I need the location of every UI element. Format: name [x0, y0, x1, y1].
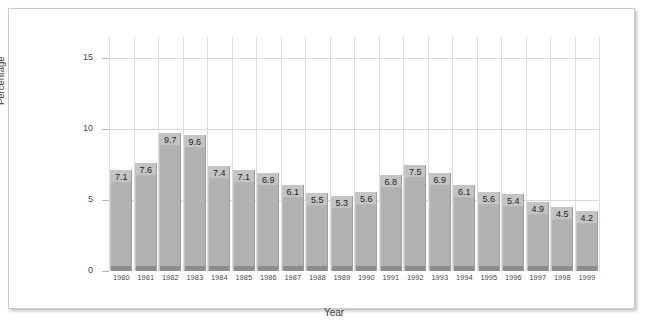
- bar[interactable]: 6.9: [257, 173, 279, 271]
- y-axis-tick-mark: [102, 200, 109, 201]
- bar-base-strip: [528, 266, 548, 271]
- bar-base-strip: [405, 266, 425, 271]
- bar[interactable]: 7.6: [135, 163, 157, 271]
- bar[interactable]: 5.4: [502, 194, 524, 271]
- bar[interactable]: 7.4: [208, 166, 230, 271]
- bar-base-strip: [454, 266, 474, 271]
- bar[interactable]: 6.1: [453, 185, 475, 272]
- bar-base-strip: [356, 266, 376, 271]
- bar-base-strip: [283, 266, 303, 271]
- bar-value-label: 7.5: [405, 166, 425, 178]
- plot-area: 0510157.119807.619819.719829.619837.4198…: [109, 37, 599, 271]
- bar-value-label: 5.3: [332, 197, 352, 209]
- y-axis-tick-mark: [102, 271, 109, 272]
- bar-base-strip: [234, 266, 254, 271]
- y-axis-tick-label: 5: [47, 195, 93, 204]
- bar[interactable]: 9.6: [184, 135, 206, 271]
- bar-value-label: 6.9: [430, 174, 450, 186]
- bar-value-label: 5.6: [356, 193, 376, 205]
- bar-value-label: 5.4: [503, 195, 523, 207]
- bar-base-strip: [479, 266, 499, 271]
- bar[interactable]: 6.9: [429, 173, 451, 271]
- bar[interactable]: 4.9: [527, 202, 549, 271]
- bar[interactable]: 7.5: [404, 165, 426, 271]
- chart-frame: Percentage 0510157.119807.619819.719829.…: [8, 8, 635, 309]
- bar[interactable]: 9.7: [159, 133, 181, 271]
- bar-base-strip: [552, 266, 572, 271]
- bar-value-label: 7.1: [234, 171, 254, 183]
- gridline-vertical: [599, 37, 600, 271]
- bar[interactable]: 7.1: [233, 170, 255, 271]
- bar-base-strip: [258, 266, 278, 271]
- bar-value-label: 6.1: [283, 186, 303, 198]
- bar[interactable]: 4.2: [576, 211, 598, 271]
- bar-value-label: 9.7: [160, 134, 180, 146]
- bar-base-strip: [307, 266, 327, 271]
- bar-value-label: 4.5: [552, 208, 572, 220]
- bar-value-label: 5.5: [307, 194, 327, 206]
- bar-base-strip: [381, 266, 401, 271]
- bar[interactable]: 5.3: [331, 196, 353, 271]
- bar[interactable]: 5.6: [355, 192, 377, 271]
- bar-base-strip: [136, 266, 156, 271]
- bar-value-label: 4.2: [577, 212, 597, 224]
- bar-value-label: 7.4: [209, 167, 229, 179]
- bar-base-strip: [209, 266, 229, 271]
- y-axis-tick-label: 0: [47, 266, 93, 275]
- bar[interactable]: 6.8: [380, 175, 402, 271]
- y-axis-tick-mark: [102, 129, 109, 130]
- bar-value-label: 9.6: [185, 136, 205, 148]
- bar-value-label: 7.1: [111, 171, 131, 183]
- y-axis-title: Percentage: [0, 56, 6, 105]
- bar[interactable]: 5.6: [478, 192, 500, 271]
- bar[interactable]: 7.1: [110, 170, 132, 271]
- bar-base-strip: [185, 266, 205, 271]
- bar-base-strip: [430, 266, 450, 271]
- y-axis-tick-mark: [102, 58, 109, 59]
- bar-value-label: 6.8: [381, 176, 401, 188]
- y-axis-tick-label: 15: [47, 53, 93, 62]
- bar-value-label: 7.6: [136, 164, 156, 176]
- bar-base-strip: [160, 266, 180, 271]
- bar[interactable]: 4.5: [551, 207, 573, 271]
- x-axis-tick-label: 1999: [572, 273, 602, 282]
- y-axis-tick-label: 10: [47, 124, 93, 133]
- bar-base-strip: [332, 266, 352, 271]
- bar-value-label: 5.6: [479, 193, 499, 205]
- bar-base-strip: [111, 266, 131, 271]
- bar[interactable]: 5.5: [306, 193, 328, 271]
- bar-value-label: 6.1: [454, 186, 474, 198]
- x-axis-title: Year: [9, 307, 650, 318]
- bar-value-label: 6.9: [258, 174, 278, 186]
- bar-value-label: 4.9: [528, 203, 548, 215]
- bar[interactable]: 6.1: [282, 185, 304, 272]
- bar-base-strip: [577, 266, 597, 271]
- bar-base-strip: [503, 266, 523, 271]
- chart-page: Percentage 0510157.119807.619819.719829.…: [0, 0, 650, 324]
